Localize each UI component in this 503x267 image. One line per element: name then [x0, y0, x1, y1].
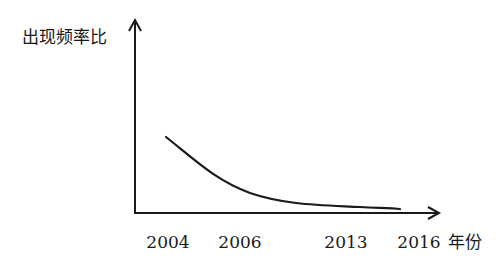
- chart-canvas: 出现频率比 2004 2006 2013 2016 年份: [0, 0, 503, 267]
- x-tick-label: 2013: [324, 232, 367, 252]
- y-axis-title: 出现频率比: [22, 27, 107, 47]
- x-tick-label: 2006: [218, 232, 261, 252]
- x-tick-label: 2004: [146, 232, 189, 252]
- series-line: [166, 137, 400, 209]
- x-tick-label: 2016: [397, 232, 440, 252]
- x-axis-title: 年份: [448, 232, 482, 252]
